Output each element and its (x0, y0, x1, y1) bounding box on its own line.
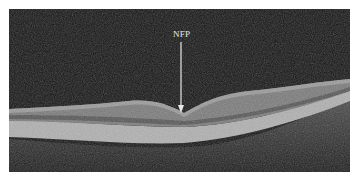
nfp-label: NFP (173, 29, 190, 39)
oct-scan-image: NFP (9, 9, 350, 172)
